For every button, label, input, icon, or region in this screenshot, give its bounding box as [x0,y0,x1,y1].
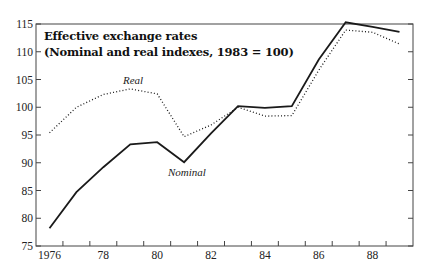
series-nominal-label: Nominal [167,166,206,178]
y-tick-label: 80 [22,212,34,224]
chart-title: Effective exchange rates [44,28,294,44]
x-tick-label: 1976 [38,249,61,261]
y-tick-label: 85 [22,185,34,197]
x-tick-label: 78 [98,249,110,261]
y-tick-label: 115 [16,18,33,30]
y-tick-label: 100 [16,101,34,113]
x-axis: 1976788082848688 [38,241,386,261]
x-tick-label: 84 [259,249,271,261]
series-labels: NominalReal [122,74,206,178]
x-tick-label: 82 [205,249,217,261]
y-tick-label: 75 [22,240,34,252]
y-tick-label: 110 [16,46,33,58]
y-tick-label: 90 [22,157,34,169]
chart-title-block: Effective exchange rates (Nominal and re… [44,28,294,60]
series-real-label: Real [122,74,143,86]
y-tick-label: 95 [22,129,34,141]
x-tick-label: 88 [367,249,379,261]
chart-subtitle: (Nominal and real indexes, 1983 = 100) [44,44,294,60]
x-tick-label: 80 [151,249,163,261]
x-tick-label: 86 [313,249,325,261]
y-tick-label: 105 [16,74,34,86]
